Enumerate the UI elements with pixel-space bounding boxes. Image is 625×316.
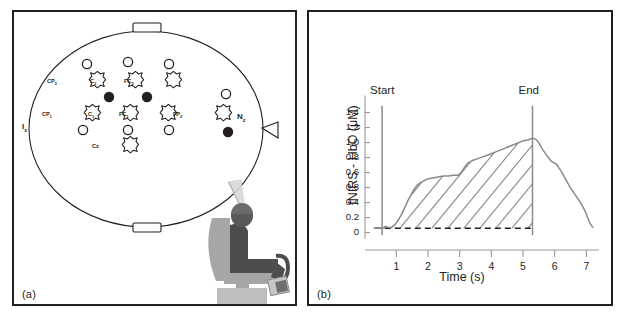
hatch-line (473, 74, 611, 256)
nasion-nose-marker (262, 122, 278, 138)
x-tick-label: 6 (545, 260, 565, 272)
hatch-line (585, 74, 611, 256)
electrode-label-c3: C3 (90, 78, 96, 86)
hatch-line (309, 74, 431, 256)
detector-optode (104, 92, 114, 102)
detector-optode (142, 92, 152, 102)
y-tick-label: 1.2 (331, 121, 359, 132)
landmark-label-inion: Iz (22, 122, 27, 133)
panel-b-caption: (b) (317, 288, 331, 300)
hatch-line (537, 74, 611, 256)
head-montage-diagram (14, 12, 295, 304)
panel-b: fNIRS - HbO (μM) Time (s) 00.20.40.80.60… (307, 10, 613, 306)
source-optode (164, 59, 173, 68)
hatch-line (601, 74, 611, 256)
y-tick-label: 0.6 (331, 166, 359, 177)
panel-a-caption: (a) (22, 288, 36, 300)
panel-a: CP3 C3 FC3 CP1 C1 FC1 Cz FP2 Iz Nz (a (12, 10, 297, 306)
subject-torso (230, 224, 248, 279)
seated-subject-figure (208, 203, 289, 304)
source-optode (82, 59, 91, 68)
cap-tab-top (133, 23, 161, 32)
chair-base (217, 288, 267, 304)
landmark-label-nasion: Nz (237, 112, 246, 123)
y-tick-label: 1.0 (331, 136, 359, 147)
x-tick-label: 7 (576, 260, 596, 272)
figure-root: CP3 C3 FC3 CP1 C1 FC1 Cz FP2 Iz Nz (a (0, 0, 625, 316)
start-annotation-label: Start (370, 84, 394, 96)
cap-tab-bottom (133, 223, 161, 232)
source-optode (78, 125, 87, 134)
y-tick-label: 0.8 (331, 151, 359, 162)
chair-back (208, 218, 230, 281)
x-tick-label: 3 (450, 260, 470, 272)
x-tick-label: 1 (386, 260, 406, 272)
x-tick-label: 5 (513, 260, 533, 272)
hatch-line (521, 74, 611, 256)
source-optode (123, 57, 132, 66)
x-tick-marks (396, 250, 586, 257)
hbo-curve (374, 138, 593, 228)
eeg-electrode (165, 71, 181, 87)
hatch-line (553, 74, 611, 256)
electrode-label-fp2: FP2 (173, 111, 182, 119)
source-optode (221, 89, 230, 98)
y-tick-label: 0 (331, 226, 359, 237)
chair-seat (224, 273, 272, 284)
subject-cap (231, 203, 253, 214)
electrode-label-c1: C1 (88, 111, 94, 119)
electrode-label-cp3: CP3 (47, 78, 57, 86)
electrode-label-fc3: FC3 (124, 78, 134, 86)
hatch-line (309, 74, 319, 256)
electrode-label-fc1: FC1 (119, 111, 129, 119)
source-optode (123, 125, 132, 134)
end-annotation-label: End (519, 84, 539, 96)
y-tick-label: 0.2 (331, 211, 359, 222)
hatch-line (569, 74, 611, 256)
hatch-line (409, 74, 559, 256)
hatch-line (505, 74, 611, 256)
y-tick-marks (365, 113, 370, 233)
detector-optode (223, 127, 233, 137)
source-optode (164, 125, 173, 134)
ankle-device-face (275, 280, 288, 293)
eeg-electrode (122, 136, 138, 152)
electrode-label-cp1: CP1 (42, 111, 52, 119)
x-axis-title: Time (s) (309, 270, 615, 284)
eeg-electrode (215, 104, 231, 120)
y-tick-label: 0.8 (331, 181, 359, 192)
y-tick-label: 1.4 (331, 106, 359, 117)
electrode-label-cz: Cz (92, 143, 99, 151)
x-tick-label: 4 (481, 260, 501, 272)
y-tick-label: 0.4 (331, 196, 359, 207)
x-tick-label: 2 (418, 260, 438, 272)
